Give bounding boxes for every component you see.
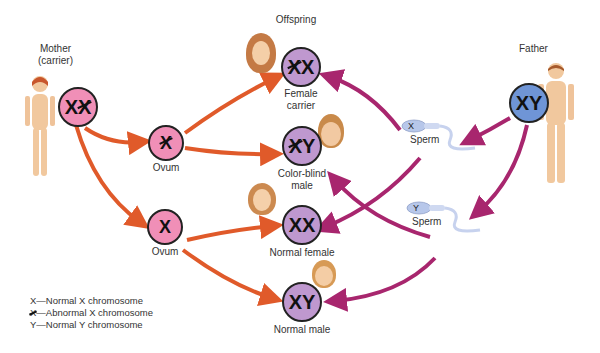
chromosome-x: X — [302, 214, 315, 237]
mother-figure-icon — [20, 72, 60, 182]
legend-symbol: Y — [30, 319, 36, 331]
ovum-normal-label: Ovum — [147, 246, 183, 258]
legend: X—Normal X chromosome X—Abnormal X chrom… — [30, 295, 153, 331]
legend-text: —Normal Y chromosome — [36, 319, 142, 330]
legend-item-normal-y: Y—Normal Y chromosome — [30, 319, 153, 331]
sperm-y-label: Sperm — [412, 216, 441, 228]
mother-genotype-circle: X X — [58, 87, 98, 127]
offspring-colorblind-male-label: Color-blind male — [267, 168, 337, 192]
offspring-normal-female-circle: X X — [282, 205, 322, 245]
legend-symbol: X — [30, 307, 36, 319]
chromosome-x: X — [159, 217, 171, 238]
chromosome-x: X — [301, 56, 314, 79]
chromosome-x-abnormal: X — [78, 96, 91, 119]
chromosome-x-abnormal: X — [288, 56, 301, 79]
ovum-abnormal-circle: X — [148, 125, 184, 161]
sperm-x-chromosome: X — [408, 120, 414, 132]
offspring-normal-male-label: Normal male — [262, 324, 342, 336]
offspring-female-carrier-label: Female carrier — [271, 88, 331, 112]
chromosome-x: X — [289, 291, 302, 314]
chromosome-y: Y — [302, 135, 315, 158]
label-line1: Female — [271, 88, 331, 100]
mother-label-line1: Mother — [38, 43, 73, 55]
offspring-normal-male-circle: X Y — [282, 282, 322, 322]
label-line1: Color-blind — [267, 168, 337, 180]
chromosome-y: Y — [302, 291, 315, 314]
offspring-colorblind-male-circle: X Y — [282, 126, 322, 166]
chromosome-x: X — [65, 96, 78, 119]
boy-face-icon — [318, 114, 344, 148]
label-line2: male — [267, 180, 337, 192]
legend-item-normal-x: X—Normal X chromosome — [30, 295, 153, 307]
father-genotype-circle: X Y — [509, 83, 549, 123]
ovum-normal-circle: X — [147, 209, 183, 245]
legend-item-abnormal-x: X—Abnormal X chromosome — [30, 307, 153, 319]
chromosome-x: X — [289, 214, 302, 237]
legend-symbol: X — [30, 295, 36, 307]
sperm-y-chromosome: Y — [413, 202, 419, 214]
sperm-x-label: Sperm — [410, 134, 439, 146]
legend-text: —Normal X chromosome — [36, 295, 143, 306]
chromosome-x: X — [516, 92, 529, 115]
chromosome-x-abnormal: X — [160, 133, 172, 154]
offspring-normal-female-label: Normal female — [262, 247, 342, 259]
label-line2: carrier — [271, 100, 331, 112]
girl-face-icon — [246, 33, 276, 73]
chromosome-y: Y — [529, 92, 542, 115]
legend-text: —Abnormal X chromosome — [36, 307, 153, 318]
offspring-heading: Offspring — [256, 14, 336, 26]
chromosome-x-abnormal: X — [289, 135, 302, 158]
mother-label-line2: (carrier) — [38, 55, 73, 67]
father-label: Father — [519, 43, 548, 55]
offspring-female-carrier-circle: X X — [281, 47, 321, 87]
ovum-abnormal-label: Ovum — [148, 162, 184, 174]
father-figure-icon — [532, 60, 578, 190]
mother-label: Mother (carrier) — [38, 43, 73, 67]
boy-face-icon — [312, 260, 336, 288]
